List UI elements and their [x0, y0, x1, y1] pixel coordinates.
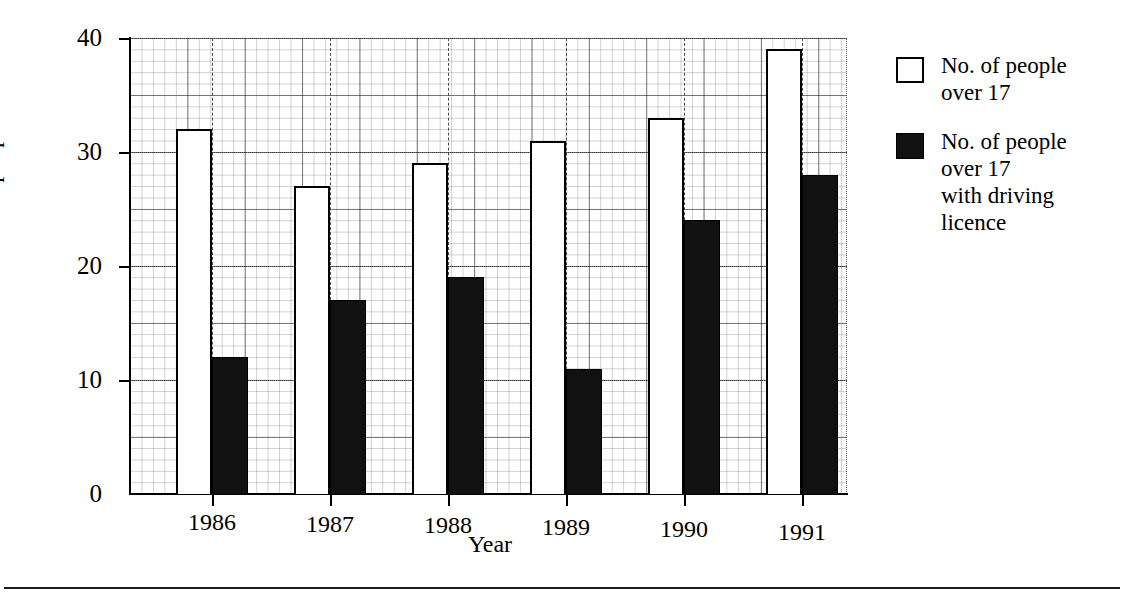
gridline-y-20 [130, 266, 847, 267]
gridline-y-40 [130, 38, 847, 39]
xtick-mark-1988 [448, 494, 450, 506]
bar-1989-over17 [530, 141, 566, 494]
ytick-mark-40 [119, 38, 130, 40]
bar-1987-with-licence [330, 300, 366, 494]
xtick-mark-1989 [566, 494, 568, 506]
bar-1986-with-licence [212, 357, 248, 494]
ytick-mark-30 [119, 152, 130, 154]
xtick-label-1991: 1991 [752, 520, 852, 544]
ytick-label-10: 10 [42, 367, 102, 392]
xtick-mark-1987 [330, 494, 332, 506]
xtick-label-1990: 1990 [634, 517, 734, 541]
ytick-mark-10 [119, 380, 130, 382]
x-axis-label: Year [430, 531, 550, 558]
ytick-mark-20 [119, 266, 130, 268]
bar-1989-with-licence [566, 369, 602, 494]
legend-label-over17: No. of people over 17 [941, 52, 1067, 106]
xtick-mark-1991 [802, 494, 804, 506]
bar-1991-with-licence [802, 175, 838, 494]
legend-swatch-open-icon [896, 57, 924, 83]
bar-1987-over17 [294, 186, 330, 494]
xtick-mark-1986 [212, 494, 214, 506]
bar-chart-figure: 40 30 20 10 0 No. of people 1986 1987 19… [0, 0, 1124, 611]
y-axis-label: No. of people [0, 119, 5, 250]
xtick-mark-1990 [684, 494, 686, 506]
bar-1990-with-licence [684, 220, 720, 494]
ytick-label-0: 0 [42, 481, 102, 506]
plot-area [130, 38, 847, 494]
legend-label-with-licence: No. of people over 17 with driving licen… [941, 128, 1067, 236]
page-divider-rule [4, 587, 1120, 589]
bar-1986-over17 [176, 129, 212, 494]
bar-1991-over17 [766, 49, 802, 494]
bar-1990-over17 [648, 118, 684, 494]
bar-1988-over17 [412, 163, 448, 494]
ytick-label-40: 40 [42, 25, 102, 50]
bar-1988-with-licence [448, 277, 484, 494]
legend-item-with-licence: No. of people over 17 with driving licen… [896, 128, 1124, 236]
legend-item-over17: No. of people over 17 [896, 52, 1124, 106]
ytick-label-20: 20 [42, 253, 102, 278]
gridline-y-30 [130, 152, 847, 153]
xtick-label-1987: 1987 [280, 512, 380, 536]
chart-legend: No. of people over 17 No. of people over… [896, 52, 1124, 258]
legend-swatch-filled-icon [896, 133, 924, 159]
ytick-label-30: 30 [42, 139, 102, 164]
xtick-label-1986: 1986 [162, 510, 262, 534]
